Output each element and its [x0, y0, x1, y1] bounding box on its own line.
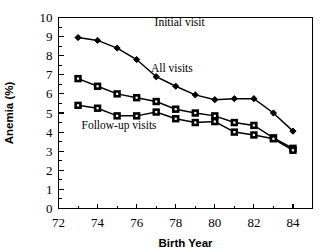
data-point [173, 83, 179, 89]
data-point [232, 120, 237, 125]
data-point [76, 76, 81, 81]
y-tick-label: 7 [46, 67, 53, 82]
y-tick-label: 3 [46, 144, 53, 159]
series-label-1: All visits [151, 62, 193, 74]
x-tick-label: 72 [52, 215, 65, 230]
data-point [251, 133, 256, 138]
data-point [115, 92, 120, 97]
data-point [114, 45, 120, 51]
data-point [212, 113, 217, 118]
series-line-0 [78, 38, 293, 132]
x-tick-label: 82 [247, 215, 260, 230]
data-point [76, 103, 81, 108]
y-tick-label: 6 [46, 86, 53, 101]
x-tick-label: 84 [286, 215, 300, 230]
data-point [192, 92, 198, 98]
y-tick-label: 10 [40, 10, 53, 25]
x-tick-label: 74 [91, 215, 105, 230]
data-point [94, 37, 100, 43]
chart-figure: 01234567891072747678808284Birth YearAnem… [0, 0, 324, 252]
data-point [95, 84, 100, 89]
x-tick-label: 80 [208, 215, 221, 230]
data-point [231, 96, 237, 102]
y-tick-label: 4 [46, 125, 53, 140]
y-tick-label: 8 [46, 48, 53, 63]
data-point [95, 106, 100, 111]
data-point [212, 97, 218, 103]
data-point [134, 113, 139, 118]
y-tick-label: 5 [46, 106, 53, 121]
data-point [271, 136, 276, 141]
data-point [232, 130, 237, 135]
series-label-2: Follow-up visits [82, 119, 158, 132]
y-tick-label: 1 [46, 182, 53, 197]
data-point [291, 148, 296, 153]
data-point [212, 119, 217, 124]
series-label-0: Initial visit [155, 16, 206, 28]
data-point [173, 116, 178, 121]
data-point [251, 123, 256, 128]
x-tick-label: 76 [130, 215, 144, 230]
data-point [193, 120, 198, 125]
x-axis-title: Birth Year [158, 237, 213, 249]
data-point [134, 95, 139, 100]
data-point [75, 34, 81, 40]
data-point [154, 110, 159, 115]
data-point [173, 107, 178, 112]
x-tick-label: 78 [169, 215, 182, 230]
y-tick-label: 2 [46, 163, 53, 178]
y-axis-title: Anemia (%) [3, 82, 15, 145]
data-point [154, 99, 159, 104]
anemia-by-birth-year-chart: 01234567891072747678808284Birth YearAnem… [0, 0, 324, 252]
y-tick-label: 9 [46, 29, 53, 44]
data-point [115, 113, 120, 118]
data-point [193, 111, 198, 116]
